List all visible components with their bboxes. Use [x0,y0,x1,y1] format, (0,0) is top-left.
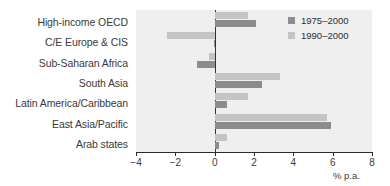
bar [215,73,280,80]
category-axis-labels: High-income OECDC/E Europe & CISSub-Saha… [0,12,132,152]
x-tick-label: 2 [242,157,266,168]
category-label: Latin America/Caribbean [15,93,128,113]
legend-swatch-icon [288,17,295,24]
x-tick-mark [215,152,216,156]
legend-item[interactable]: 1990–2000 [288,29,349,42]
x-tick-label: 4 [281,157,305,168]
legend-label: 1975–2000 [301,15,349,26]
x-tick-label: −4 [124,157,148,168]
bar [215,20,256,27]
x-tick-mark [293,152,294,156]
bar [215,142,219,149]
x-tick-mark [333,152,334,156]
bar [215,122,331,129]
category-label: Arab states [76,134,128,154]
bar [215,12,248,19]
legend: 1975–20001990–2000 [288,14,349,44]
bar [215,134,228,141]
bar [215,114,327,121]
category-label: C/E Europe & CIS [45,32,128,52]
x-tick-label: 0 [203,157,227,168]
x-tick-label: −2 [163,157,187,168]
legend-label: 1990–2000 [301,30,349,41]
bar [215,93,248,100]
bar [215,81,262,88]
bar-chart: High-income OECDC/E Europe & CISSub-Saha… [0,0,390,186]
category-label: South Asia [79,73,128,93]
legend-item[interactable]: 1975–2000 [288,14,349,27]
bar [214,40,215,47]
bar [215,101,228,108]
x-tick-label: 6 [321,157,345,168]
bar [197,61,215,68]
x-axis-unit-label: % p.a. [333,170,360,181]
x-tick-mark [175,152,176,156]
x-tick-mark [372,152,373,156]
x-tick-mark [254,152,255,156]
category-label: Sub-Saharan Africa [39,53,128,73]
x-tick-mark [136,152,137,156]
legend-swatch-icon [288,32,295,39]
bar [209,53,215,60]
category-label: East Asia/Pacific [52,114,128,134]
x-tick-label: 8 [360,157,384,168]
category-label: High-income OECD [37,12,128,32]
bar [167,32,214,39]
